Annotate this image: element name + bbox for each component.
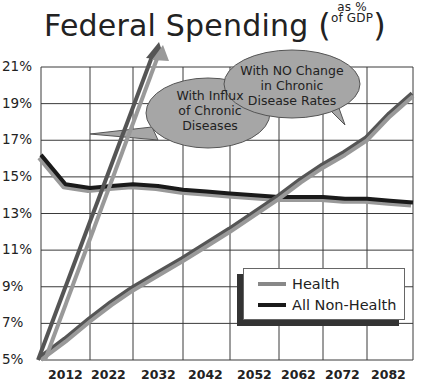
- legend: Health All Non-Health: [243, 268, 405, 320]
- y-tick-label: 15%: [2, 168, 36, 184]
- y-tick-label: 21%: [2, 58, 36, 74]
- x-tick-label: 2052: [237, 367, 272, 382]
- y-tick-label: 5%: [2, 351, 36, 367]
- x-tick-label: 2042: [188, 367, 223, 382]
- legend-item-health: Health: [258, 276, 340, 292]
- y-tick-label: 19%: [2, 95, 36, 111]
- x-tick-label: 2062: [281, 367, 316, 382]
- legend-swatch-non-health: [258, 303, 286, 307]
- y-tick-label: 7%: [2, 314, 36, 330]
- y-tick-label: 9%: [2, 278, 36, 294]
- chart-plot-area: [0, 0, 430, 391]
- x-tick-label: 2022: [91, 367, 126, 382]
- y-tick-label: 13%: [2, 205, 36, 221]
- legend-item-non-health: All Non-Health: [258, 297, 396, 313]
- x-tick-label: 2072: [325, 367, 360, 382]
- y-tick-label: 11%: [2, 241, 36, 257]
- callout-no-change-text: With NO Changein ChronicDisease Rates: [226, 63, 358, 108]
- x-tick-label: 2012: [48, 367, 83, 382]
- y-tick-label: 17%: [2, 131, 36, 147]
- x-tick-label: 2032: [141, 367, 176, 382]
- legend-swatch-health: [258, 282, 286, 286]
- x-tick-label: 2082: [371, 367, 406, 382]
